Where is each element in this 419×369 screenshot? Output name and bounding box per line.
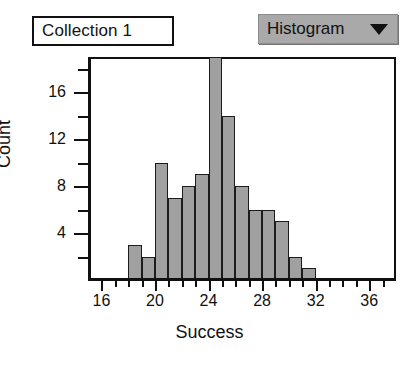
collection-title-box[interactable]: Collection 1 <box>32 16 174 46</box>
y-tick-minor <box>78 116 88 118</box>
histogram-window: Collection 1 Histogram 481216 1620242832… <box>0 0 419 369</box>
x-tick-minor <box>142 280 144 287</box>
y-tick-major <box>74 233 88 235</box>
y-axis-line <box>88 57 91 280</box>
x-tick-minor <box>249 280 251 287</box>
x-tick-minor <box>383 280 385 287</box>
x-tick-major <box>369 280 371 291</box>
x-tick-major <box>316 280 318 291</box>
x-tick-minor <box>329 280 331 287</box>
y-tick-minor <box>78 257 88 259</box>
x-tick-minor <box>275 280 277 287</box>
x-tick-minor <box>168 280 170 287</box>
x-tick-major <box>209 280 211 291</box>
x-tick-minor <box>195 280 197 287</box>
x-tick-minor <box>115 280 117 287</box>
x-tick-major <box>262 280 264 291</box>
x-tick-minor <box>289 280 291 287</box>
y-tick-label: 4 <box>0 224 66 242</box>
plot-type-label: Histogram <box>267 19 344 39</box>
x-tick-label: 32 <box>307 292 325 310</box>
collection-title-label: Collection 1 <box>42 21 132 41</box>
x-tick-label: 28 <box>253 292 271 310</box>
x-tick-minor <box>235 280 237 287</box>
plot-frame <box>88 57 396 280</box>
y-tick-major <box>74 139 88 141</box>
x-tick-label: 16 <box>92 292 110 310</box>
y-tick-label: 8 <box>0 177 66 195</box>
x-tick-major <box>101 280 103 291</box>
chevron-down-icon[interactable] <box>370 24 388 35</box>
y-tick-minor <box>78 69 88 71</box>
x-tick-label: 36 <box>360 292 378 310</box>
x-tick-minor <box>222 280 224 287</box>
x-tick-minor <box>128 280 130 287</box>
x-tick-minor <box>356 280 358 287</box>
y-tick-major <box>74 186 88 188</box>
x-tick-minor <box>182 280 184 287</box>
y-tick-minor <box>78 210 88 212</box>
y-tick-label: 16 <box>0 83 66 101</box>
x-tick-major <box>155 280 157 291</box>
x-tick-label: 20 <box>146 292 164 310</box>
y-tick-minor <box>78 163 88 165</box>
x-axis-line <box>88 278 396 281</box>
x-axis-title: Success <box>0 322 419 343</box>
x-tick-label: 24 <box>200 292 218 310</box>
y-tick-major <box>74 92 88 94</box>
plot-type-dropdown[interactable]: Histogram <box>258 14 398 44</box>
y-axis-title: Count <box>0 120 15 168</box>
x-tick-minor <box>302 280 304 287</box>
x-tick-minor <box>342 280 344 287</box>
